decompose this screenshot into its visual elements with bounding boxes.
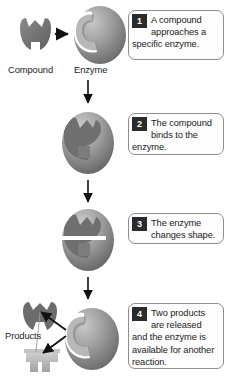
step-number-badge-4: 4 <box>132 307 147 321</box>
step4-enzyme-shape <box>65 308 119 370</box>
label-products: Products <box>5 330 41 341</box>
step-number-badge-2: 2 <box>132 117 147 131</box>
step1-enzyme-shape <box>74 6 126 64</box>
step-callout-4: 4 Two products are released and the enzy… <box>128 303 224 369</box>
step-callout-2: 2 The compound binds to the enzyme. <box>128 113 224 155</box>
product-lower-shape <box>24 349 60 372</box>
step1-compound-shape <box>20 18 51 50</box>
label-compound: Compound <box>8 64 53 75</box>
step-number-badge-3: 3 <box>132 217 147 231</box>
step-callout-3: 3 The enzyme changes shape. <box>128 213 224 244</box>
step-number-badge-1: 1 <box>132 14 147 28</box>
step2-complex-shape <box>62 112 114 174</box>
step-callout-1: 1 A compound approaches a specific enzym… <box>128 10 224 60</box>
label-enzyme: Enzyme <box>74 64 107 75</box>
enzyme-action-diagram: Compound Enzyme Products 1 A compound ap… <box>0 0 227 378</box>
step3-complex-shape <box>58 209 114 271</box>
